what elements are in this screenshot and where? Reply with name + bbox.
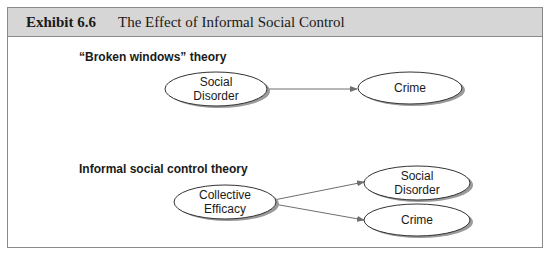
node-label-line2: Efficacy [204, 202, 246, 216]
node-social-disorder-2: Social Disorder [364, 166, 473, 202]
causal-diagram: Social Disorder Crime Collective Efficac… [0, 0, 549, 263]
node-crime-2: Crime [364, 204, 473, 238]
node-collective-efficacy: Collective Efficacy [174, 185, 279, 221]
node-crime-1: Crime [358, 72, 465, 106]
arrow-collective-efficacy-to-social-disorder [274, 182, 364, 200]
node-social-disorder-1: Social Disorder [165, 72, 270, 108]
node-label-line1: Collective [199, 188, 251, 202]
node-label-line1: Social [401, 169, 434, 183]
node-label: Crime [394, 81, 426, 95]
node-label-line1: Social [200, 75, 233, 89]
node-label-line2: Disorder [193, 89, 238, 103]
node-label-line2: Disorder [394, 183, 439, 197]
arrow-collective-efficacy-to-crime [274, 204, 364, 220]
node-label: Crime [401, 213, 433, 227]
